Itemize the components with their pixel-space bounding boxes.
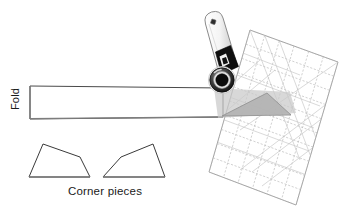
quilting-diagram — [0, 0, 346, 216]
diagram-canvas: Fold Corner pieces — [0, 0, 346, 216]
rotary-cutter — [205, 11, 239, 93]
fabric-strip — [30, 86, 223, 119]
fold-label: Fold — [9, 75, 21, 123]
corner-piece-left — [29, 144, 90, 177]
handle-hole-icon — [210, 19, 216, 25]
corner-pieces-label: Corner pieces — [0, 185, 210, 197]
corner-pieces-group — [29, 144, 165, 177]
fabric-strip-body — [30, 86, 223, 119]
corner-piece-right — [103, 144, 165, 177]
blade-hub — [216, 74, 228, 86]
